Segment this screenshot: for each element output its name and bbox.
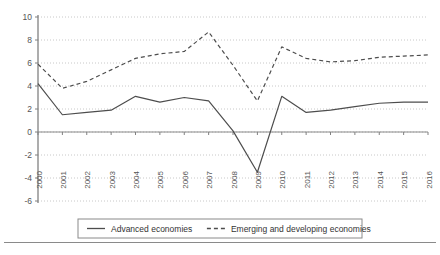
line-chart-svg: -6-4-20246810 20002001200220032004200520… [0,0,440,255]
x-tick-group: 2000200120022003200420052006200720082009… [35,132,434,189]
x-tick-label: 2016 [425,170,434,188]
x-tick-label: 2013 [351,170,360,188]
y-tick-label: 6 [27,58,32,68]
chart-plot-area: -6-4-20246810 20002001200220032004200520… [0,0,440,255]
y-tick-label: 4 [27,81,32,91]
x-tick-label: 2005 [156,170,165,188]
x-tick-label: 2010 [278,170,287,188]
x-tick-label: 2006 [181,170,190,188]
legend-label-2: Emerging and developing economies [231,224,371,234]
y-tick-label: 8 [27,35,32,45]
series-line-2 [38,32,428,101]
series-line-1 [38,84,428,173]
x-tick-label: 2007 [205,170,214,188]
legend: Advanced economiesEmerging and developin… [78,219,371,238]
y-tick-label: -6 [24,196,32,206]
x-tick-label: 2012 [327,170,336,188]
y-tick-label: -4 [24,173,32,183]
x-tick-label: 2004 [132,170,141,188]
x-tick-label: 2015 [400,170,409,188]
x-tick-label: 2011 [303,170,312,188]
y-tick-label: -2 [24,150,32,160]
data-series-group [38,32,428,172]
y-tick-label: 10 [23,12,33,22]
legend-label-1: Advanced economies [111,224,192,234]
x-tick-label: 2014 [376,170,385,188]
x-tick-label: 2009 [254,170,263,188]
chart-figure: -6-4-20246810 20002001200220032004200520… [0,0,440,255]
x-tick-label: 2008 [230,170,239,188]
x-tick-label: 2001 [59,170,68,188]
x-tick-label: 2000 [35,170,44,188]
x-tick-label: 2003 [108,170,117,188]
y-tick-label: 0 [27,127,32,137]
y-tick-label: 2 [27,104,32,114]
x-tick-label: 2002 [83,170,92,188]
